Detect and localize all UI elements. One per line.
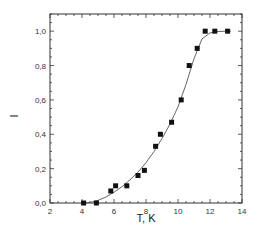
- data-point: [212, 29, 217, 34]
- data-point: [124, 183, 129, 188]
- tick-labels: 24681012140,00,20,40,60,81,0: [35, 27, 247, 216]
- data-point: [179, 97, 184, 102]
- plot-border: [50, 14, 242, 203]
- data-point: [113, 183, 118, 188]
- fit-line: [82, 31, 231, 203]
- x-tick-label: 2: [48, 207, 53, 216]
- x-tick-label: 10: [174, 207, 183, 216]
- data-point: [225, 29, 230, 34]
- data-point: [203, 29, 208, 34]
- y-axis-label: I: [8, 114, 20, 117]
- x-tick-label: 4: [80, 207, 85, 216]
- data-point: [158, 132, 163, 137]
- x-tick-label: 14: [238, 207, 247, 216]
- y-tick-label: 0,2: [35, 165, 47, 174]
- data-point: [81, 201, 86, 206]
- fit-curve: [82, 31, 231, 203]
- data-point: [108, 188, 113, 193]
- x-tick-label: 12: [206, 207, 215, 216]
- chart: 24681012140,00,20,40,60,81,0 T, K I: [0, 0, 259, 241]
- y-tick-label: 0,4: [35, 130, 47, 139]
- y-tick-label: 0,8: [35, 62, 47, 71]
- data-point: [187, 63, 192, 68]
- plot-frame: [50, 14, 242, 203]
- y-tick-label: 0,6: [35, 96, 47, 105]
- data-point: [136, 173, 141, 178]
- y-tick-label: 0,0: [35, 199, 47, 208]
- axis-ticks: [50, 14, 242, 203]
- data-point: [94, 201, 99, 206]
- data-point: [195, 46, 200, 51]
- data-markers: [81, 29, 230, 206]
- data-point: [153, 144, 158, 149]
- y-tick-label: 1,0: [35, 27, 47, 36]
- x-axis-label: T, K: [137, 212, 157, 224]
- x-tick-label: 6: [112, 207, 117, 216]
- data-point: [142, 168, 147, 173]
- data-point: [169, 120, 174, 125]
